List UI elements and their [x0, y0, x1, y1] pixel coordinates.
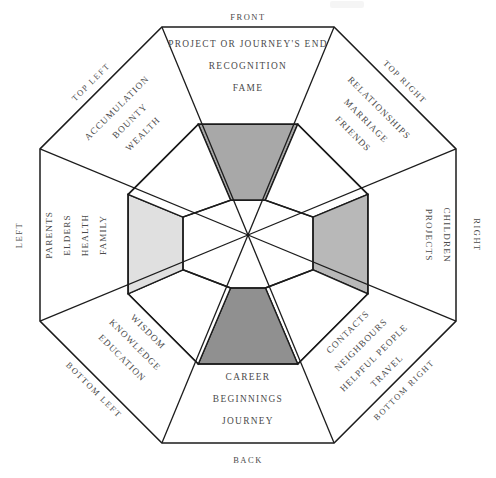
- sector-keywords-back: CAREER BEGINNINGS JOURNEY: [213, 372, 283, 426]
- sector-keywords-front: PROJECT OR JOURNEY'S END RECOGNITION FAM…: [168, 39, 328, 93]
- front-keyword-3: FAME: [233, 83, 264, 93]
- left-keyword-2: ELDERS: [62, 214, 72, 255]
- direction-label-bottom-right: BOTTOM RIGHT: [371, 357, 436, 422]
- front-keyword-2: RECOGNITION: [209, 61, 287, 71]
- direction-label-left: LEFT: [14, 222, 24, 248]
- back-keyword-2: BEGINNINGS: [213, 394, 283, 404]
- inner-octagon-hub: [183, 200, 313, 288]
- sector-keywords-right: CHILDREN PROJECTS: [424, 207, 452, 262]
- direction-label-right: RIGHT: [472, 218, 482, 251]
- bagua-diagram: FRONT BACK LEFT RIGHT TOP LEFT TOP RIGHT…: [0, 0, 496, 478]
- direction-label-back: BACK: [233, 455, 263, 465]
- bottom-left-keyword-3: EDUCATION: [96, 332, 147, 383]
- left-keyword-3: HEALTH: [80, 214, 90, 257]
- left-keyword-4: FAMILY: [98, 215, 108, 255]
- direction-label-top-left: TOP LEFT: [70, 61, 112, 103]
- left-keyword-1: PARENTS: [44, 211, 54, 259]
- sector-keywords-top-left: ACCUMULATION BOUNTY WEALTH: [83, 74, 162, 153]
- scan-artifact: [330, 1, 364, 8]
- direction-label-front: FRONT: [230, 12, 265, 22]
- back-keyword-3: JOURNEY: [222, 416, 274, 426]
- octagon-diagram-svg: FRONT BACK LEFT RIGHT TOP LEFT TOP RIGHT…: [0, 0, 496, 478]
- right-keyword-1: CHILDREN: [442, 207, 452, 262]
- right-keyword-2: PROJECTS: [424, 209, 434, 262]
- back-keyword-1: CAREER: [226, 372, 271, 382]
- sector-keywords-top-right: RELATIONSHIPS MARRIAGE FRIENDS: [333, 75, 412, 154]
- direction-label-bottom-left: BOTTOM LEFT: [64, 360, 124, 420]
- sector-keywords-left: PARENTS ELDERS HEALTH FAMILY: [44, 211, 108, 259]
- front-keyword-1: PROJECT OR JOURNEY'S END: [168, 39, 328, 49]
